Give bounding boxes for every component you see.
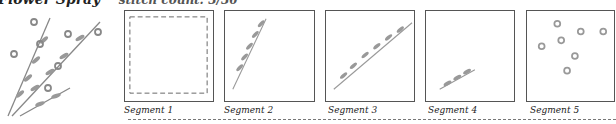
segment-5-box <box>526 10 615 102</box>
pattern-title: Flower Spray stitch count: 3/36 <box>0 0 238 7</box>
segment-5-label: Segment 5 <box>530 105 579 115</box>
segment-1-label: Segment 1 <box>124 105 173 115</box>
segment-4-label: Segment 4 <box>428 105 477 115</box>
title-sub: stitch count: 3/36 <box>119 0 238 7</box>
flower-spray-preview <box>0 8 112 124</box>
sprig-icon <box>225 11 314 101</box>
segment-4-box <box>425 10 515 102</box>
segment-1-box <box>124 10 214 102</box>
segment-2-box <box>224 10 315 102</box>
segment-3-label: Segment 3 <box>328 105 377 115</box>
dashed-border-icon <box>125 11 213 101</box>
flowers-icon <box>527 11 614 101</box>
cut-line <box>128 119 616 120</box>
sprig-icon <box>426 11 514 101</box>
segment-2-label: Segment 2 <box>224 105 273 115</box>
flower-spray-icon <box>0 8 112 124</box>
title-main: Flower Spray <box>0 0 100 7</box>
segment-3-box <box>325 10 415 102</box>
sprig-icon <box>326 11 414 101</box>
